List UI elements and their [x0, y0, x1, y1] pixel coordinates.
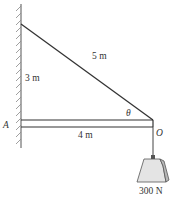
wall: [16, 4, 21, 148]
weight-block: [137, 159, 169, 182]
beam-length-label: 4 m: [78, 130, 93, 140]
wall-height-label: 3 m: [25, 73, 40, 83]
hanger-clip: [151, 155, 155, 159]
cable: [21, 24, 153, 120]
angle-theta-label: θ: [126, 108, 131, 118]
diagram-canvas: 5 m 3 m 4 m A O θ 300 N: [0, 0, 172, 200]
beam: [21, 120, 153, 127]
point-a-label: A: [2, 120, 9, 130]
point-o-label: O: [156, 128, 163, 138]
weight-label: 300 N: [139, 186, 163, 196]
cable-length-label: 5 m: [92, 51, 107, 61]
